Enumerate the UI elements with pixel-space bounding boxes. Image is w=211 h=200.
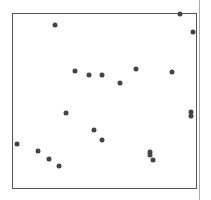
scatter-plot-frame	[12, 13, 197, 189]
data-point	[92, 128, 97, 133]
data-point	[87, 73, 92, 78]
data-point	[189, 114, 194, 119]
divider-line	[199, 0, 200, 200]
data-point	[118, 81, 123, 86]
data-point	[36, 149, 41, 154]
data-point	[100, 73, 105, 78]
data-point	[64, 111, 69, 116]
data-point	[191, 30, 196, 35]
data-point	[47, 157, 52, 162]
data-point	[170, 70, 175, 75]
data-point	[134, 67, 139, 72]
data-point	[151, 158, 156, 163]
data-point	[178, 12, 183, 17]
data-point	[100, 138, 105, 143]
data-point	[73, 69, 78, 74]
data-point	[15, 142, 20, 147]
data-point	[53, 23, 58, 28]
data-point	[57, 164, 62, 169]
